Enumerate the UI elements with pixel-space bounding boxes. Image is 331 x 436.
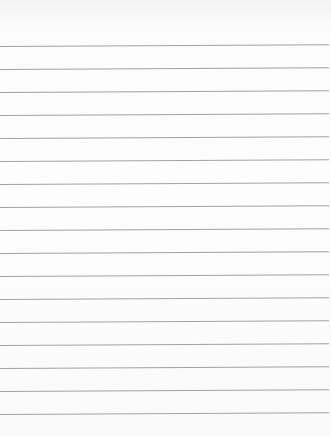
- ruled-line: [0, 228, 329, 231]
- ruled-line: [0, 67, 329, 70]
- ruled-line: [0, 136, 329, 139]
- ruled-line: [0, 182, 329, 185]
- ruled-line: [0, 343, 329, 346]
- ruled-line: [0, 159, 329, 162]
- ruled-line: [0, 297, 329, 300]
- ruled-line: [0, 274, 329, 277]
- lined-paper: [0, 0, 331, 436]
- ruled-line: [0, 412, 329, 415]
- ruled-line: [0, 90, 329, 93]
- ruled-line: [0, 44, 329, 47]
- ruled-line: [0, 366, 329, 369]
- ruled-line: [0, 320, 329, 323]
- ruled-line: [0, 205, 329, 208]
- ruled-line: [0, 251, 329, 254]
- ruled-line: [0, 389, 329, 392]
- ruled-line: [0, 113, 329, 116]
